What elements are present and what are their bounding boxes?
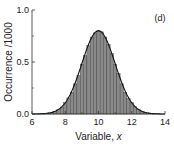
x-tick-label: 6	[29, 117, 34, 127]
histogram-bar	[120, 84, 123, 114]
histogram-bar	[100, 32, 103, 114]
histogram-bar	[87, 45, 90, 114]
x-axis-title: Variable, x	[75, 131, 123, 142]
histogram-bar	[113, 64, 116, 114]
panel-label: (d)	[155, 13, 166, 23]
x-tick-label: 8	[63, 117, 68, 127]
histogram-bar	[117, 73, 120, 114]
y-tick-label: 0.5	[16, 57, 29, 67]
histogram-bar	[84, 56, 87, 114]
histogram-bar	[94, 33, 97, 114]
y-axis-title: Occurrence /1000	[3, 22, 14, 102]
histogram-chart: 0.00.51.068101214Variable, xOccurrence /…	[0, 0, 174, 147]
x-tick-label: 10	[93, 117, 103, 127]
histogram-bar	[110, 54, 113, 114]
y-tick-label: 0.0	[16, 109, 29, 119]
x-tick-label: 12	[127, 117, 137, 127]
histogram-bar	[77, 76, 80, 114]
histogram-bar	[127, 98, 130, 114]
histogram-bar	[90, 37, 93, 114]
histogram-bar	[97, 31, 100, 114]
histogram-bar	[74, 84, 77, 114]
x-tick-label: 14	[160, 117, 170, 127]
histogram-bar	[123, 92, 126, 114]
histogram-bar	[80, 64, 83, 114]
histogram-bar	[103, 37, 106, 114]
y-tick-label: 1.0	[16, 5, 29, 15]
histogram-bar	[70, 92, 73, 114]
histogram-bar	[107, 44, 110, 114]
